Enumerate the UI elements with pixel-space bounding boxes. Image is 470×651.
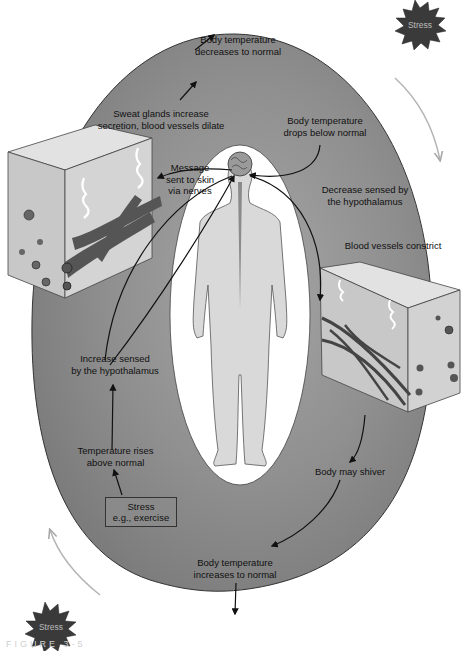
label-message-sent-to-skin: Message sent to skin via nerves	[155, 162, 225, 197]
stress-burst-top-right-label: Stress	[400, 20, 440, 30]
stress-exercise-label: Stress e.g., exercise	[113, 501, 170, 524]
stress-exercise-box: Stress e.g., exercise	[105, 497, 177, 527]
label-temp-drops-below: Body temperature drops below normal	[275, 115, 375, 138]
clockwise-arrow-top-right	[395, 78, 440, 160]
label-temp-increases-normal: Body temperature increases to normal	[180, 557, 290, 580]
label-temp-decreases-normal: Body temperature decreases to normal	[178, 34, 298, 57]
figure-caption: FIGURE 3-5	[6, 639, 86, 649]
label-temp-rises-above: Temperature rises above normal	[68, 445, 163, 468]
diagram-canvas	[0, 0, 470, 651]
label-sweat-glands-increase: Sweat glands increase secretion, blood v…	[86, 108, 236, 131]
stress-burst-bottom-left-label: Stress	[31, 622, 71, 632]
label-increase-sensed: Increase sensed by the hypothalamus	[65, 353, 165, 376]
label-body-may-shiver: Body may shiver	[305, 466, 395, 478]
thermoregulation-diagram: Body temperature decreases to normal Swe…	[0, 0, 470, 651]
label-decrease-sensed: Decrease sensed by the hypothalamus	[300, 184, 430, 207]
brain-icon	[228, 152, 252, 176]
label-vessels-constrict: Blood vessels constrict	[328, 240, 458, 252]
